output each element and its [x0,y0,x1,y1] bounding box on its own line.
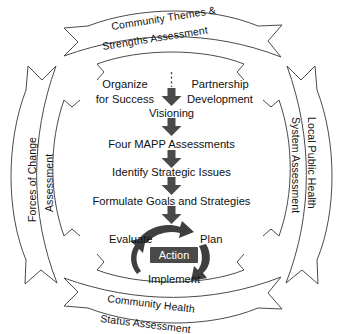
mapp-framework-diagram: Community Themes & Strengths Assessment … [0,0,343,334]
action-cycle: Action Evaluate Plan Implement [0,0,343,334]
cycle-label-plan: Plan [200,233,222,245]
cycle-label-implement: Implement [148,273,201,285]
action-center-label: Action [159,249,190,261]
cycle-label-evaluate: Evaluate [109,233,153,245]
